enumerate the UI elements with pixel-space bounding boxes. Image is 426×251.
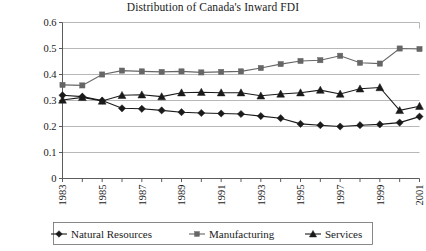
data-point-square-marker <box>417 46 422 51</box>
data-point-triangle-marker <box>316 86 324 93</box>
data-point-diamond-marker <box>237 110 244 117</box>
x-tick-label: 1991 <box>216 185 227 206</box>
chart-figure: Distribution of Canada's Inward FDI 00.1… <box>0 0 426 251</box>
data-point-square-marker <box>219 69 224 74</box>
y-tick-label: 0.2 <box>43 121 56 132</box>
data-point-square-marker <box>338 53 343 58</box>
data-point-diamond-marker <box>178 109 185 116</box>
data-point-square-marker <box>119 68 124 73</box>
data-point-triangle-marker <box>416 102 424 109</box>
x-tick-label: 1989 <box>176 185 187 206</box>
legend-label: Manufacturing <box>209 228 275 240</box>
data-point-square-marker <box>357 60 362 65</box>
x-tick-marks-group <box>63 179 420 183</box>
data-point-square-marker <box>278 62 283 67</box>
data-point-square-marker <box>195 232 200 237</box>
y-tick-label: 0.5 <box>43 43 56 54</box>
legend-entry-manufacturing[interactable]: Manufacturing <box>189 228 275 240</box>
legend-label: Natural Resources <box>71 228 152 240</box>
legend-entry-services[interactable]: Services <box>305 228 362 240</box>
chart-legend: Natural ResourcesManufacturingServices <box>51 223 373 245</box>
y-tick-label: 0.1 <box>43 147 56 158</box>
data-point-diamond-marker <box>218 110 225 117</box>
gridlines-group <box>63 23 420 153</box>
x-tick-label: 1987 <box>137 185 148 206</box>
data-point-square-marker <box>179 69 184 74</box>
data-point-diamond-marker <box>118 105 125 112</box>
legend-label: Services <box>325 228 362 240</box>
chart-plot-area: 00.10.20.30.40.50.6 19831985198719891991… <box>0 0 426 251</box>
data-point-diamond-marker <box>396 119 403 126</box>
y-tick-label: 0 <box>51 173 56 184</box>
x-tick-label: 1997 <box>335 185 346 206</box>
data-point-square-marker <box>238 69 243 74</box>
x-tick-labels-group: 1983198519871989199119931995199719992001 <box>57 185 425 206</box>
data-point-diamond-marker <box>257 113 264 120</box>
data-point-diamond-marker <box>277 115 284 122</box>
data-point-diamond-marker <box>198 109 205 116</box>
x-tick-label: 1985 <box>97 185 108 206</box>
data-point-diamond-marker <box>356 122 363 129</box>
data-point-square-marker <box>258 65 263 70</box>
y-tick-labels-group: 00.10.20.30.40.50.6 <box>43 17 57 184</box>
data-point-square-marker <box>139 69 144 74</box>
legend-entry-natural-resources[interactable]: Natural Resources <box>51 228 152 240</box>
data-point-square-marker <box>80 83 85 88</box>
series-manufacturing <box>60 46 422 88</box>
data-point-diamond-marker <box>416 113 423 120</box>
y-tick-label: 0.4 <box>43 69 57 80</box>
data-point-diamond-marker <box>337 123 344 130</box>
data-point-square-marker <box>318 58 323 63</box>
data-point-diamond-marker <box>56 231 63 238</box>
series-line <box>63 49 420 86</box>
x-tick-label: 1993 <box>256 185 267 206</box>
x-tick-label: 1995 <box>295 185 306 206</box>
data-point-diamond-marker <box>317 122 324 129</box>
x-tick-label: 1999 <box>375 185 386 206</box>
data-point-square-marker <box>60 82 65 87</box>
series-services <box>59 84 424 114</box>
x-tick-label: 1983 <box>57 185 68 206</box>
data-point-square-marker <box>397 46 402 51</box>
y-tick-label: 0.3 <box>43 95 56 106</box>
data-point-diamond-marker <box>158 107 165 114</box>
y-tick-label: 0.6 <box>43 17 56 28</box>
data-point-square-marker <box>199 70 204 75</box>
data-point-square-marker <box>100 72 105 77</box>
data-point-diamond-marker <box>376 121 383 128</box>
data-point-square-marker <box>377 61 382 66</box>
data-series-group <box>59 46 424 130</box>
x-tick-label: 2001 <box>414 185 425 206</box>
data-point-diamond-marker <box>138 105 145 112</box>
data-point-square-marker <box>159 69 164 74</box>
data-point-square-marker <box>298 58 303 63</box>
